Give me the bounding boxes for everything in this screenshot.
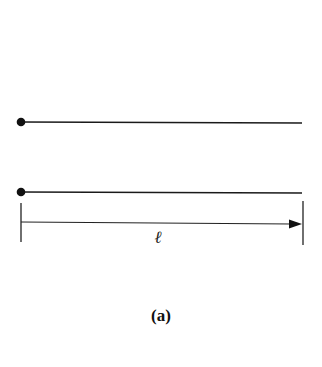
upper-pin-dot <box>17 118 26 127</box>
lower-bar <box>17 188 302 197</box>
length-label: ℓ <box>146 228 170 248</box>
dimension-arrow-shaft <box>21 222 292 224</box>
figure-caption: (a) <box>0 306 322 326</box>
lower-bar-line <box>21 192 302 193</box>
lower-pin-dot <box>17 188 26 197</box>
upper-bar-line <box>21 122 302 123</box>
arrowhead-icon <box>289 220 302 229</box>
upper-bar <box>17 118 302 127</box>
